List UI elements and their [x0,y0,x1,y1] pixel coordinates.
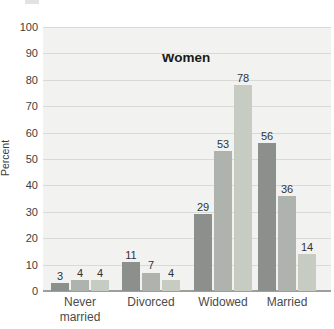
y-tick-label: 50 [0,153,38,165]
bar-value-label: 56 [252,130,282,142]
x-category-label: Widowed [190,295,256,310]
legend-swatch-partial-icon [25,0,39,4]
gridline [43,53,331,54]
bar-value-label: 4 [85,267,115,279]
bar-series-1-married: 56 [258,143,276,291]
gridline [43,106,331,107]
x-category-label: Married [254,295,320,310]
y-tick-label: 0 [0,285,38,297]
bar-series-3-never-married: 4 [91,280,109,291]
bar-value-label: 14 [292,241,322,253]
x-category-label: Never married [47,295,113,325]
bar-series-2-never-married: 4 [71,280,89,291]
bar-value-label: 78 [228,72,258,84]
y-tick-label: 60 [0,127,38,139]
x-axis-labels: Never marriedDivorcedWidowedMarried [43,295,331,327]
bar-series-1-never-married: 3 [51,283,69,291]
gridline [43,80,331,81]
bar-series-3-widowed: 78 [234,85,252,291]
gridline [43,27,331,28]
chart-title: Women [162,50,211,65]
bar-series-3-divorced: 4 [162,280,180,291]
y-tick-label: 90 [0,47,38,59]
bar-value-label: 4 [156,267,186,279]
y-tick-label: 80 [0,74,38,86]
x-category-label: Divorced [118,295,184,310]
y-tick-label: 20 [0,232,38,244]
y-tick-label: 100 [0,21,38,33]
y-axis-ticks: 0102030405060708090100 [0,27,38,291]
y-tick-label: 10 [0,259,38,271]
bar-series-2-widowed: 53 [214,151,232,291]
bar-series-3-married: 14 [298,254,316,291]
y-tick-label: 70 [0,100,38,112]
y-tick-label: 40 [0,179,38,191]
chart-canvas: Percent 0102030405060708090100 Women 344… [0,0,334,329]
y-tick-label: 30 [0,206,38,218]
gridline [43,159,331,160]
bar-value-label: 36 [272,183,302,195]
plot-area: Women 3441174295378563614 [43,27,331,291]
bar-series-1-widowed: 29 [194,214,212,291]
gridline [43,133,331,134]
